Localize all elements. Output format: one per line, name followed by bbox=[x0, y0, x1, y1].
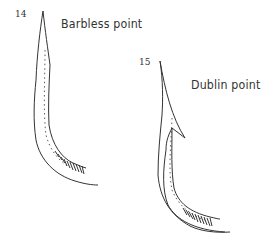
hook-points-drawing bbox=[0, 0, 278, 242]
barbless-point-hook-icon bbox=[34, 11, 98, 185]
dublin-point-hook-icon bbox=[158, 61, 230, 232]
